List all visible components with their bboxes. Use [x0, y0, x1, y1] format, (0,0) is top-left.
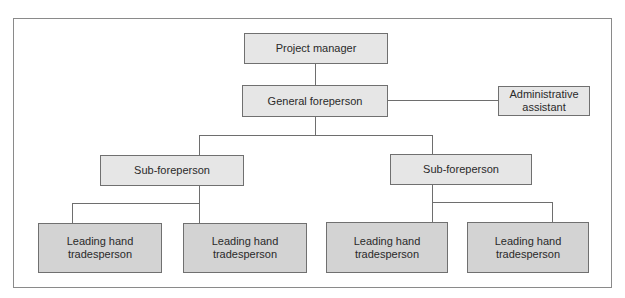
node-sub-foreperson-right: Sub-foreperson: [390, 154, 532, 185]
node-sub-foreperson-left: Sub-foreperson: [100, 155, 244, 186]
node-label: Leading hand tradesperson: [354, 235, 421, 261]
node-project-manager: Project manager: [244, 33, 388, 64]
node-leading-hand-2: Leading hand tradesperson: [183, 223, 307, 273]
connector-to-sub-right: [432, 135, 433, 154]
node-leading-hand-3: Leading hand tradesperson: [326, 222, 448, 273]
connector-sub-left-down: [199, 186, 200, 223]
node-label: Leading hand tradesperson: [212, 235, 279, 261]
node-leading-hand-4: Leading hand tradesperson: [467, 222, 589, 273]
node-label: Leading hand tradesperson: [495, 235, 562, 261]
connector-gf-subs: [199, 135, 433, 136]
node-label: Administrative assistant: [509, 88, 578, 114]
node-general-foreperson: General foreperson: [242, 85, 388, 117]
node-label: Sub-foreperson: [423, 163, 499, 176]
connector-to-lh4: [552, 202, 553, 222]
node-label: Project manager: [276, 42, 357, 55]
connector-gf-admin: [388, 100, 498, 101]
node-label: General foreperson: [268, 95, 363, 108]
node-leading-hand-1: Leading hand tradesperson: [38, 223, 162, 273]
connector-sub-right-branch: [432, 202, 553, 203]
connector-sub-right-down: [432, 185, 433, 222]
connector-pm-gf: [315, 64, 316, 85]
connector-gf-down: [315, 117, 316, 135]
connector-to-sub-left: [199, 135, 200, 155]
node-label: Sub-foreperson: [134, 164, 210, 177]
node-administrative-assistant: Administrative assistant: [498, 86, 590, 116]
connector-to-lh1: [72, 203, 73, 223]
connector-sub-left-branch: [72, 203, 200, 204]
node-label: Leading hand tradesperson: [67, 235, 134, 261]
